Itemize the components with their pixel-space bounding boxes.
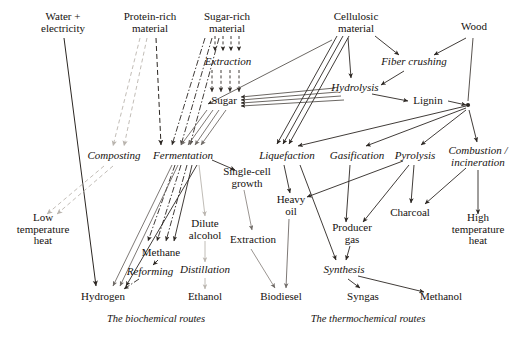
edge-composting-lowtempheat [47,166,113,214]
node-methanol[interactable]: Methanol [420,291,462,303]
node-syngas[interactable]: Syngas [347,291,379,303]
node-low-temperature-heat[interactable]: Low temperature heat [17,212,70,247]
edge-methane-reforming [153,260,158,265]
edge-reforming-hydrogen [124,279,139,289]
edge-wood-fibercrushing [434,38,466,55]
node-charcoal[interactable]: Charcoal [390,207,430,219]
node-pyrolysis[interactable]: Pyrolysis [395,150,436,162]
caption-thermochemical-routes: The thermochemical routes [311,313,426,324]
edge-pyrolysis-charcoal [411,165,414,203]
edge-singlecell-extraction [244,190,252,230]
thermochemical-hub-node [466,103,470,107]
edge-extraction-sugar [212,70,239,92]
node-producer-gas[interactable]: Producer gas [332,222,372,245]
node-heavy-oil[interactable]: Heavy oil [277,194,306,217]
edge-hub-combustion [469,110,477,142]
node-fiber-crushing[interactable]: Fiber crushing [381,56,447,68]
edge-fermentation-dilutealcohol [199,165,205,216]
edge-lignin-hub [448,101,466,105]
edge-sugar-fermentation [181,110,226,145]
node-composting[interactable]: Composting [87,150,140,162]
edge-hub-gasification [366,108,466,146]
node-dilute-alcohol[interactable]: Dilute alcohol [189,218,221,241]
edge-producergas-synthesis [346,246,350,260]
node-protein-rich-material[interactable]: Protein-rich material [124,11,177,34]
node-synthesis[interactable]: Synthesis [324,264,365,276]
node-ethanol[interactable]: Ethanol [188,291,222,303]
edge-fibercrushing-hydrolysis [381,71,404,85]
edge-wood-hub [468,38,473,101]
node-sugar[interactable]: Sugar [211,95,237,107]
edge-water-electricity-hydrogen [64,38,96,286]
node-water-electricity[interactable]: Water + electricity [41,11,85,34]
node-extraction-oil[interactable]: Extraction [230,234,276,246]
edge-liquefaction-heavyoil [284,165,290,193]
node-combustion-incineration[interactable]: Combustion / incineration [449,145,508,168]
edge-combustion-charcoal [425,168,466,204]
node-extraction-sugar[interactable]: Extraction [205,56,251,68]
edge-heavyoil-biodiesel [286,219,289,288]
flow-diagram: Water + electricity Protein-rich materia… [0,0,526,338]
node-liquefaction[interactable]: Liquefaction [259,150,315,162]
edge-fermentation-methane [148,165,192,241]
node-cellulosic-material[interactable]: Cellulosic material [334,11,379,34]
node-reforming[interactable]: Reforming [127,266,173,278]
node-distillation[interactable]: Distillation [180,264,230,276]
edge-liquefaction-synthesis [300,165,336,260]
node-lignin[interactable]: Lignin [413,95,442,107]
edge-synthesis-syngas [348,279,360,288]
node-high-temperature-heat[interactable]: High temperature heat [452,212,505,247]
edge-protein-fermentation [156,38,161,145]
node-biodiesel[interactable]: Biodiesel [260,291,302,303]
node-methane[interactable]: Methane [142,247,180,259]
node-hydrogen[interactable]: Hydrogen [81,291,125,303]
edge-cellulosic-hydrolysis [348,38,351,78]
node-hydrolysis[interactable]: Hydrolysis [331,82,378,94]
edge-hydrolysis-sugar [241,88,344,106]
node-gasification[interactable]: Gasification [330,150,384,162]
edge-gasification-producergas [346,165,350,222]
edge-cellulosic-fibercrushing [375,36,399,55]
node-fermentation[interactable]: Fermentation [153,150,213,162]
edge-extraction-biodiesel [251,249,275,288]
edge-hydrolysis-lignin [372,94,408,101]
caption-biochemical-routes: The biochemical routes [107,313,205,324]
edge-protein-composting [113,38,147,146]
node-single-cell-growth[interactable]: Single-cell growth [223,166,271,189]
node-sugar-rich-material[interactable]: Sugar-rich material [204,11,250,34]
edge-pyrolysis-heavyoil [307,161,403,197]
node-wood[interactable]: Wood [461,21,487,33]
